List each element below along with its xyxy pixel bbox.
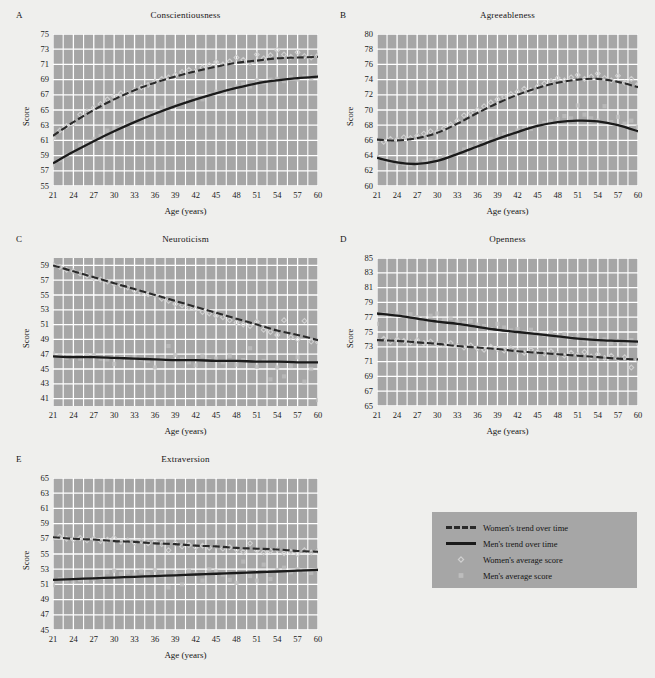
x-tick-label: 42 — [508, 410, 528, 420]
x-tick-label: 21 — [43, 410, 63, 420]
legend-item: Women's average score — [446, 554, 563, 565]
x-tick-label: 57 — [288, 634, 308, 644]
x-tick-label: 33 — [447, 190, 467, 200]
y-tick-label: 74 — [353, 74, 373, 84]
legend-item: Women's trend over time — [446, 522, 568, 533]
y-tick-label: 51 — [29, 579, 49, 589]
x-tick-label: 21 — [367, 190, 387, 200]
x-tick-label: 33 — [447, 410, 467, 420]
legend-label: Men's trend over time — [483, 539, 557, 549]
y-tick-label: 63 — [29, 488, 49, 498]
y-tick-label: 77 — [353, 312, 373, 322]
x-tick-label: 30 — [104, 190, 124, 200]
y-tick-label: 59 — [29, 260, 49, 270]
x-tick-label: 39 — [487, 410, 507, 420]
x-tick-label: 60 — [628, 410, 648, 420]
y-tick-label: 61 — [29, 503, 49, 513]
y-tick-label: 41 — [29, 393, 49, 403]
x-tick-label: 42 — [186, 190, 206, 200]
y-tick-label: 83 — [353, 267, 373, 277]
y-tick-label: 70 — [353, 105, 373, 115]
x-tick-label: 48 — [548, 410, 568, 420]
x-tick-label: 27 — [84, 410, 104, 420]
y-tick-label: 51 — [29, 319, 49, 329]
y-tick-label: 60 — [353, 181, 373, 191]
x-tick-label: 21 — [43, 190, 63, 200]
x-tick-label: 57 — [288, 410, 308, 420]
y-tick-label: 75 — [353, 327, 373, 337]
x-tick-label: 36 — [467, 190, 487, 200]
y-tick-label: 65 — [29, 105, 49, 115]
x-tick-label: 60 — [308, 410, 328, 420]
x-axis-label: Age (years) — [377, 426, 638, 436]
y-tick-label: 63 — [29, 120, 49, 130]
x-tick-label: 42 — [508, 190, 528, 200]
x-tick-label: 51 — [247, 634, 267, 644]
solid-line-icon — [446, 538, 476, 549]
plot-area — [53, 478, 318, 630]
y-tick-label: 45 — [29, 625, 49, 635]
x-tick-label: 39 — [165, 190, 185, 200]
x-tick-label: 51 — [568, 410, 588, 420]
x-tick-label: 54 — [267, 190, 287, 200]
y-tick-label: 71 — [29, 59, 49, 69]
personality-traits-figure: AConscientiousnessScoreAge (years)555759… — [0, 0, 655, 678]
x-tick-label: 39 — [487, 190, 507, 200]
x-tick-label: 54 — [588, 190, 608, 200]
y-tick-label: 62 — [353, 165, 373, 175]
panel-letter: A — [16, 10, 23, 20]
y-tick-label: 69 — [353, 371, 373, 381]
x-tick-label: 36 — [145, 410, 165, 420]
y-tick-label: 65 — [353, 401, 373, 411]
y-tick-label: 59 — [29, 518, 49, 528]
x-tick-label: 51 — [568, 190, 588, 200]
x-tick-label: 60 — [308, 634, 328, 644]
square-marker-icon — [446, 570, 476, 581]
x-tick-label: 30 — [104, 410, 124, 420]
y-tick-label: 72 — [353, 89, 373, 99]
x-tick-label: 27 — [407, 190, 427, 200]
x-tick-label: 57 — [608, 410, 628, 420]
y-tick-label: 78 — [353, 44, 373, 54]
y-tick-label: 79 — [353, 297, 373, 307]
x-tick-label: 51 — [247, 190, 267, 200]
x-tick-label: 36 — [467, 410, 487, 420]
y-tick-label: 75 — [29, 29, 49, 39]
y-tick-label: 45 — [29, 364, 49, 374]
y-tick-label: 85 — [353, 253, 373, 263]
panel-b: BAgreeablenessScoreAge (years)6062646668… — [332, 8, 650, 230]
x-tick-label: 39 — [165, 410, 185, 420]
panel-e: EExtraversionScoreAge (years)45474951535… — [8, 452, 330, 674]
x-tick-label: 48 — [548, 190, 568, 200]
legend-item: Men's average score — [446, 570, 552, 581]
y-tick-label: 57 — [29, 275, 49, 285]
x-axis-label: Age (years) — [377, 206, 638, 216]
legend-label: Men's average score — [483, 571, 552, 581]
y-tick-label: 49 — [29, 334, 49, 344]
y-tick-label: 73 — [29, 44, 49, 54]
x-tick-label: 42 — [186, 634, 206, 644]
x-tick-label: 60 — [628, 190, 648, 200]
y-tick-label: 55 — [29, 290, 49, 300]
y-tick-label: 65 — [29, 473, 49, 483]
y-tick-label: 47 — [29, 349, 49, 359]
y-tick-label: 68 — [353, 120, 373, 130]
x-tick-label: 48 — [226, 190, 246, 200]
x-tick-label: 48 — [226, 634, 246, 644]
y-tick-label: 55 — [29, 549, 49, 559]
x-tick-label: 39 — [165, 634, 185, 644]
x-axis-label: Age (years) — [53, 426, 318, 436]
y-tick-label: 43 — [29, 378, 49, 388]
legend: Women's trend over timeMen's trend over … — [432, 512, 637, 588]
x-tick-label: 45 — [528, 190, 548, 200]
x-tick-label: 24 — [63, 190, 83, 200]
plot-area — [377, 258, 638, 406]
y-tick-label: 67 — [29, 89, 49, 99]
x-tick-label: 60 — [308, 190, 328, 200]
y-tick-label: 49 — [29, 594, 49, 604]
x-tick-label: 57 — [288, 190, 308, 200]
panel-letter: E — [16, 454, 22, 464]
x-tick-label: 33 — [125, 410, 145, 420]
y-tick-label: 64 — [353, 150, 373, 160]
diamond-marker-icon — [446, 554, 476, 565]
